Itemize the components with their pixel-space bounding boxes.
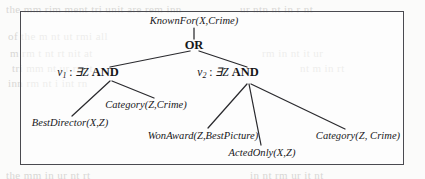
- exists-quantifier: ∃Z: [215, 66, 228, 78]
- ghost-text: the mm in ur nt rt: [6, 169, 91, 179]
- node-leaf-wonaward: WonAward(Z,BestPicture): [148, 131, 259, 142]
- node-separator: :: [66, 66, 75, 78]
- node-and-left: ν1 : ∃Z AND: [57, 66, 118, 80]
- ghost-text: in nt rm ur it nt: [250, 169, 324, 179]
- node-or-operator: OR: [185, 39, 204, 52]
- node-leaf-bestdirector: BestDirector(X,Z): [32, 118, 109, 129]
- node-leaf-actedonly: ActedOnly(X,Z): [229, 148, 296, 159]
- and-operator: AND: [92, 65, 119, 79]
- figure-border: [20, 11, 404, 165]
- node-leaf-category-left: Category(Z,Crime): [105, 100, 187, 111]
- exists-quantifier: ∃Z: [75, 66, 88, 78]
- node-leaf-category-right: Category(Z, Crime): [316, 131, 400, 142]
- figure-canvas: the mm rim ment tri unit are rem inn of …: [0, 0, 425, 179]
- node-root-knownfor: KnownFor(X,Crime): [150, 16, 239, 27]
- and-operator: AND: [232, 65, 259, 79]
- node-separator: :: [206, 66, 215, 78]
- node-and-right: ν2 : ∃Z AND: [197, 66, 258, 80]
